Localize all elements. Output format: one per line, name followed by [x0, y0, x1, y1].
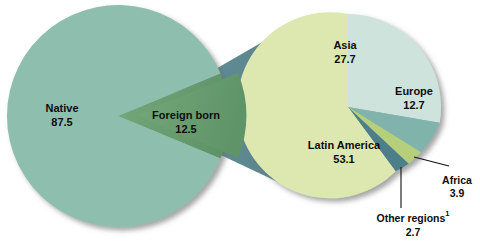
value-native: 87.5 — [51, 116, 72, 128]
value-europe: 12.7 — [403, 99, 424, 111]
label-native: Native — [45, 102, 78, 114]
chart-canvas: Native 87.5 Foreign born 12.5 Asia 27.7 … — [0, 0, 480, 242]
slice-asia — [348, 14, 441, 123]
value-africa: 3.9 — [450, 187, 465, 199]
label-foreign-born: Foreign born — [152, 109, 220, 121]
leader-line-africa — [414, 157, 449, 166]
label-europe: Europe — [395, 85, 433, 97]
value-asia: 27.7 — [334, 53, 355, 65]
pie-of-pie-chart: Native 87.5 Foreign born 12.5 Asia 27.7 … — [0, 0, 480, 242]
label-africa: Africa — [442, 174, 472, 186]
label-other-regions-footnote: 1 — [445, 209, 449, 218]
label-latin-america: Latin America — [308, 139, 381, 151]
label-asia: Asia — [333, 39, 357, 51]
label-other-regions: Other regions1 — [376, 209, 449, 223]
label-other-regions-text: Other regions — [376, 212, 445, 224]
value-foreign-born: 12.5 — [175, 123, 196, 135]
value-other-regions: 2.7 — [406, 226, 421, 238]
value-latin-america: 53.1 — [333, 153, 354, 165]
